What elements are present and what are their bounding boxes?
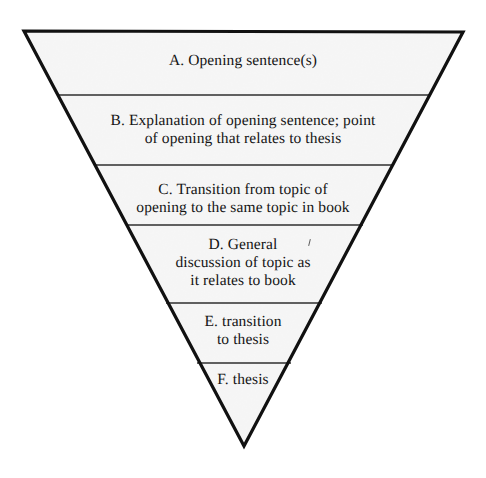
diagram-canvas: A. Opening sentence(s) B. Explanation of…	[0, 0, 486, 478]
inverted-triangle-graphic	[0, 0, 486, 478]
triangle-texture	[24, 31, 464, 447]
